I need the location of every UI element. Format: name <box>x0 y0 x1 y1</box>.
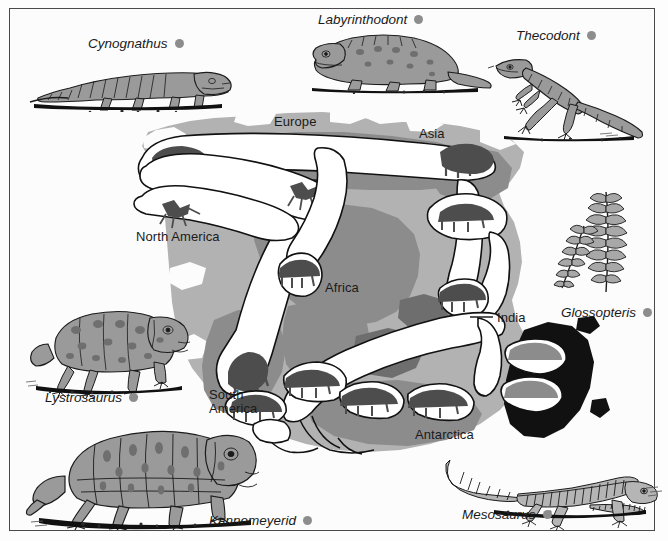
fossil-key-thecodont-dot <box>587 31 596 40</box>
fossil-key-labyrinthodont: Labyrinthodont <box>318 12 423 27</box>
pangaea-fossil-diagram: Europe Asia North America Africa India S… <box>0 0 668 541</box>
fossil-band-antarctica-left <box>284 362 347 402</box>
fossil-key-lystrosaurus-name: Lystrosaurus <box>45 390 122 405</box>
map-label-india: India <box>497 310 526 325</box>
fossil-key-glossopteris-name: Glossopteris <box>561 305 636 320</box>
fossil-key-mesosaurus: Mesosaurus <box>462 507 552 522</box>
map-label-asia: Asia <box>419 126 445 141</box>
fossil-key-labyrinthodont-dot <box>414 15 423 24</box>
map-label-south-america-line2: America <box>209 402 257 416</box>
cynognathus-drawing <box>26 52 246 112</box>
fossil-key-cynognathus: Cynognathus <box>88 36 184 51</box>
fossil-key-mesosaurus-dot <box>543 510 552 519</box>
fossil-key-labyrinthodont-name: Labyrinthodont <box>318 12 407 27</box>
lystrosaurus-drawing <box>20 300 192 398</box>
fossil-key-cynognathus-dot <box>175 39 184 48</box>
map-label-antarctica: Antarctica <box>415 427 474 442</box>
glossopteris-drawing <box>548 180 644 302</box>
map-label-africa: Africa <box>325 280 359 295</box>
fossil-key-lystrosaurus: Lystrosaurus <box>45 390 138 405</box>
fossil-key-glossopteris: Glossopteris <box>561 305 652 320</box>
fossil-band-africa-central <box>278 253 322 296</box>
fossil-key-kannemeyerid-name: Kannemeyerid <box>209 513 296 528</box>
fossil-key-lystrosaurus-dot <box>129 393 138 402</box>
labyrinthodont-drawing <box>298 28 498 94</box>
fossil-key-glossopteris-dot <box>643 308 652 317</box>
map-label-north-america: North America <box>136 229 220 244</box>
fossil-key-mesosaurus-name: Mesosaurus <box>462 507 536 522</box>
map-label-europe: Europe <box>274 114 317 129</box>
map-label-south-america: South America <box>209 388 257 416</box>
fossil-key-kannemeyerid: Kannemeyerid <box>209 513 312 528</box>
fossil-key-kannemeyerid-dot <box>303 516 312 525</box>
fossil-key-thecodont: Thecodont <box>516 28 596 43</box>
thecodont-drawing <box>474 50 646 142</box>
fossil-key-thecodont-name: Thecodont <box>516 28 580 43</box>
map-label-south-america-line1: South <box>209 388 257 402</box>
fossil-key-cynognathus-name: Cynognathus <box>88 36 168 51</box>
